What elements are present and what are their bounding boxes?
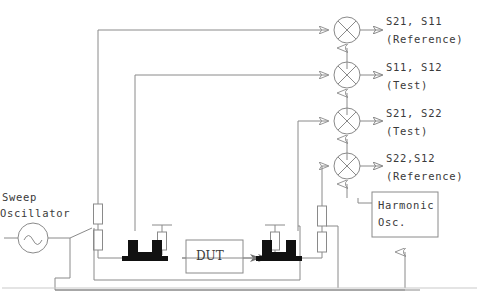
mixer-3-label-line1: S21, S22 [386, 106, 442, 120]
sine-source-icon [18, 223, 48, 253]
attenuator-right-lower [318, 232, 327, 252]
schematic-diagram: Sweep Oscillator DUT Harmonic Osc. S21, … [0, 0, 477, 300]
mixer-4-label-line1: S22,S12 [386, 151, 435, 165]
mixer-1-cross [338, 21, 356, 39]
directional-coupler-left [122, 240, 168, 261]
mixer-2-label-line2: (Test) [386, 78, 428, 92]
mixer-3-label-line2: (Test) [386, 124, 428, 138]
attenuator-left-lower [94, 230, 103, 250]
mixer-2-label-line1: S11, S12 [386, 60, 442, 74]
mixer-4-label-line2: (Reference) [386, 169, 463, 183]
harmonic-osc-label-line1: Harmonic [378, 197, 434, 214]
switch-blade [70, 228, 92, 238]
attenuator-left-upper [94, 204, 103, 224]
attenuator-right-upper [318, 206, 327, 226]
mixer-1-label-line2: (Reference) [386, 32, 463, 46]
source-label-line2: Oscillator [0, 206, 70, 220]
mixer-1-label-line1: S21, S11 [386, 14, 442, 28]
harmonic-osc-label-line2: Osc. [378, 214, 406, 231]
source-label-line1: Sweep [2, 190, 37, 204]
dut-label: DUT [196, 249, 224, 263]
